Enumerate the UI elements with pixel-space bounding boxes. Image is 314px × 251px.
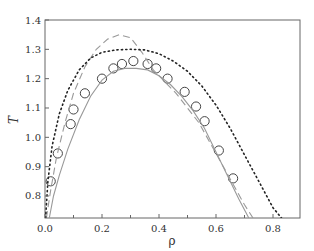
- x-axis: 0.00.20.40.60.8: [37, 214, 281, 234]
- y-tick-label: 1.1: [25, 102, 41, 113]
- phase-diagram-chart: 0.00.20.40.60.8 0.80.91.01.11.21.31.4 ρ …: [0, 0, 314, 251]
- data-point-marker: [80, 89, 89, 98]
- y-axis-label: T: [7, 115, 21, 124]
- series-layer: [46, 35, 282, 218]
- y-tick-label: 1.0: [25, 132, 41, 143]
- solid-curve: [49, 68, 249, 218]
- y-tick-label: 1.4: [25, 15, 41, 26]
- data-point-marker: [129, 56, 138, 65]
- x-tick-label: 0.6: [208, 223, 224, 234]
- data-point-marker: [97, 74, 106, 83]
- y-tick-label: 1.3: [25, 44, 41, 55]
- x-axis-label: ρ: [168, 234, 175, 248]
- x-tick-label: 0.8: [265, 223, 281, 234]
- y-tick-label: 0.9: [25, 161, 41, 172]
- data-point-marker: [180, 87, 189, 96]
- x-tick-label: 0.0: [37, 223, 53, 234]
- data-point-marker: [66, 120, 75, 129]
- x-tick-label: 0.2: [94, 223, 110, 234]
- x-tick-label: 0.4: [151, 223, 167, 234]
- y-tick-label: 1.2: [25, 73, 41, 84]
- data-point-marker: [117, 59, 126, 68]
- y-tick-label: 0.8: [25, 190, 41, 201]
